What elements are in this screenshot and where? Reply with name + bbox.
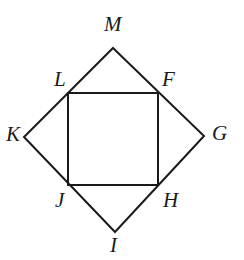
rectangle-LFHJ xyxy=(68,93,158,185)
vertex-label-h: H xyxy=(163,190,178,211)
vertex-label-g: G xyxy=(212,123,227,144)
vertex-label-k: K xyxy=(6,124,20,145)
vertex-label-m: M xyxy=(104,14,122,35)
vertex-label-f: F xyxy=(162,69,175,90)
figure-canvas xyxy=(0,0,244,260)
geometry-figure: MLFKGJHI xyxy=(0,0,244,260)
vertex-label-j: J xyxy=(55,190,64,211)
vertex-label-i: I xyxy=(110,235,117,256)
vertex-label-l: L xyxy=(54,69,66,90)
